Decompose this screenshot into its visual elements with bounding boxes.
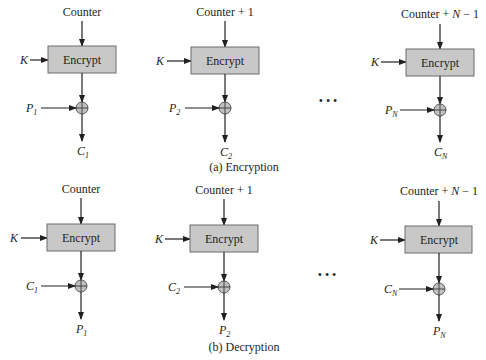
xor-icon <box>75 280 87 292</box>
counter-label: Counter + N − 1 <box>401 7 479 21</box>
input-label: P2 <box>168 101 180 117</box>
output-label: C1 <box>77 144 89 160</box>
ellipsis: • • • <box>318 268 337 282</box>
counter-label: Counter <box>62 182 101 196</box>
decryption-stage-1: Counter K Encrypt C1 P1 <box>9 182 115 338</box>
encrypt-block-label: Encrypt <box>62 231 101 245</box>
counter-label: Counter + N − 1 <box>400 184 478 198</box>
counter-label: Counter + 1 <box>196 5 253 19</box>
xor-icon <box>76 102 88 114</box>
encryption-section: Counter K Encrypt P1 C1 Counter + 1 K <box>19 5 479 174</box>
ellipsis: • • • <box>319 94 338 108</box>
decryption-caption: (b) Decryption <box>209 340 280 354</box>
output-label: PN <box>432 324 446 340</box>
xor-icon <box>433 283 445 295</box>
encrypt-block-label: Encrypt <box>206 54 245 68</box>
decryption-stage-n: Counter + N − 1 K Encrypt CN PN <box>369 184 478 340</box>
output-label: C2 <box>220 145 232 161</box>
encryption-stage-n: Counter + N − 1 K Encrypt PN CN <box>370 7 479 161</box>
key-label: K <box>370 55 380 69</box>
key-label: K <box>369 233 379 247</box>
xor-icon <box>434 104 446 116</box>
encrypt-block-label: Encrypt <box>421 56 460 70</box>
key-label: K <box>9 231 19 245</box>
decryption-stage-2: Counter + 1 K Encrypt C2 P2 <box>154 183 258 339</box>
output-label: P1 <box>75 322 87 338</box>
decryption-section: Counter K Encrypt C1 P1 Counter + 1 K <box>9 182 478 354</box>
output-label: CN <box>434 145 448 161</box>
input-label: C1 <box>26 279 38 295</box>
counter-label: Counter <box>63 5 102 19</box>
encrypt-block-label: Encrypt <box>63 53 102 67</box>
input-label: CN <box>384 282 398 298</box>
encrypt-block-label: Encrypt <box>420 233 459 247</box>
input-label: C2 <box>168 280 180 296</box>
key-label: K <box>19 53 29 67</box>
counter-label: Counter + 1 <box>195 183 252 197</box>
input-label: P1 <box>25 101 37 117</box>
xor-icon <box>218 281 230 293</box>
encryption-caption: (a) Encryption <box>209 160 279 174</box>
input-label: PN <box>384 103 398 119</box>
encryption-stage-2: Counter + 1 K Encrypt P2 C2 <box>155 5 259 161</box>
encryption-stage-1: Counter K Encrypt P1 C1 <box>19 5 116 160</box>
key-label: K <box>154 232 164 246</box>
ctr-mode-diagram: Counter K Encrypt P1 C1 Counter + 1 K <box>0 0 486 360</box>
key-label: K <box>155 54 165 68</box>
output-label: P2 <box>218 323 230 339</box>
xor-icon <box>219 102 231 114</box>
encrypt-block-label: Encrypt <box>205 232 244 246</box>
